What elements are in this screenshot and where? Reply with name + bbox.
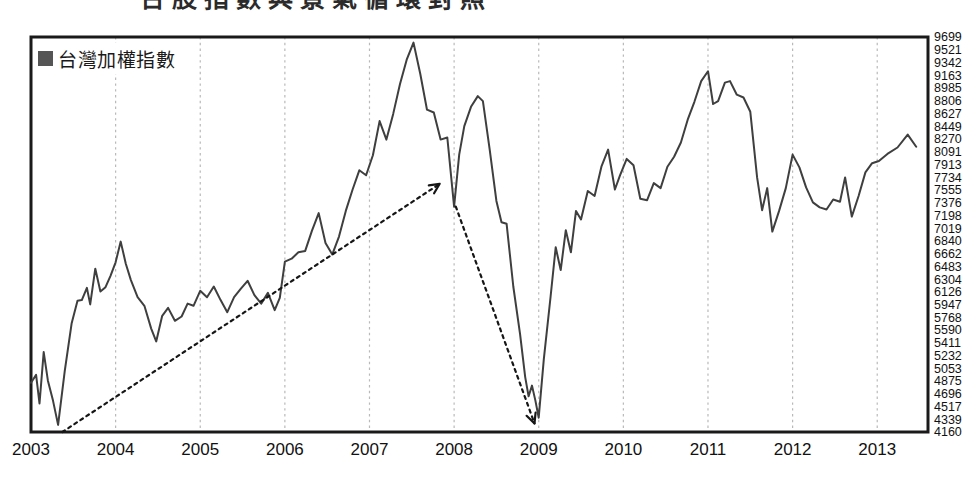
x-tick-label: 2008 (435, 440, 473, 459)
x-tick-label: 2013 (858, 440, 896, 459)
series-line-taiwan-index (31, 43, 916, 425)
x-tick-label: 2011 (690, 440, 727, 459)
x-tick-label: 2003 (12, 440, 50, 459)
x-tick-label: 2012 (774, 440, 812, 459)
x-tick-label: 2010 (604, 440, 642, 459)
chart-legend: 台灣加權指數 (36, 43, 181, 74)
legend-label: 台灣加權指數 (58, 45, 175, 72)
x-tick-label: 2005 (181, 440, 219, 459)
chart-screenshot: 台股指數與景氣循環對照 9699952193429163898588068627… (0, 0, 978, 493)
plot-frame (31, 37, 928, 432)
x-tick-label: 2004 (97, 440, 135, 459)
uptrend-arrow-head (429, 184, 440, 194)
x-tick-label: 2006 (266, 440, 304, 459)
downtrend-arrow (456, 207, 535, 424)
x-tick-label: 2009 (520, 440, 558, 459)
downtrend-arrow-head (527, 413, 536, 424)
legend-swatch-icon (38, 51, 53, 66)
uptrend-arrow (62, 184, 439, 432)
x-tick-label: 2007 (351, 440, 389, 459)
y-tick-label: 4160 (934, 425, 962, 439)
